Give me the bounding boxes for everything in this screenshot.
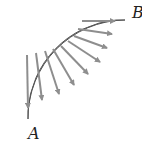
label-a: A (28, 126, 40, 142)
curved-beam (28, 20, 125, 119)
curved-beam-diagram (0, 0, 142, 153)
label-b: B (132, 5, 142, 21)
distributed-load-arrows (27, 21, 115, 108)
